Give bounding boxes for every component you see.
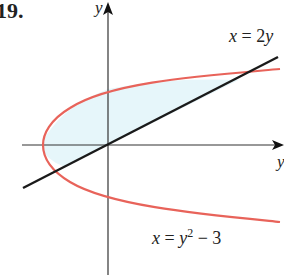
problem-number: 19. (0, 0, 24, 24)
parabola-equation-label: x = y2 − 3 (152, 226, 221, 249)
line-equation-label: x = 2y (229, 26, 273, 47)
y-axis-label: y (95, 0, 103, 18)
x-axis-label: y (277, 152, 284, 172)
figure: 19. y y x = 2y x = y2 − 3 (0, 0, 284, 275)
